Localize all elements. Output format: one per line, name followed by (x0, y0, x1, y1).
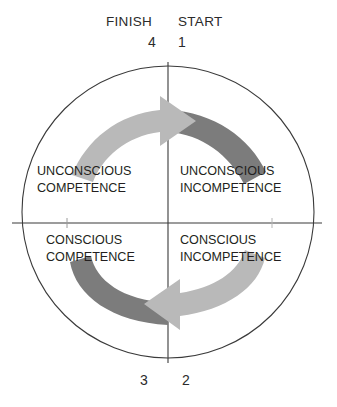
quadrant-line-2: COMPETENCE (37, 180, 131, 197)
quadrant-label-conscious-incompetence: CONSCIOUS INCOMPETENCE (180, 232, 281, 266)
finish-label: FINISH (106, 14, 152, 29)
quadrant-line-1: CONSCIOUS (46, 232, 135, 249)
step-number-4: 4 (148, 34, 156, 50)
diagram-canvas (0, 0, 337, 407)
step-number-2: 2 (182, 372, 190, 388)
quadrant-label-unconscious-incompetence: UNCONSCIOUS INCOMPETENCE (180, 163, 281, 197)
step-number-1: 1 (178, 34, 186, 50)
competence-cycle-diagram: FINISH START 4 1 3 2 UNCONSCIOUS COMPETE… (0, 0, 337, 407)
step-number-3: 3 (140, 372, 148, 388)
bottom-arrow-dark-segment (70, 256, 168, 325)
quadrant-line-1: CONSCIOUS (180, 232, 281, 249)
quadrant-line-2: COMPETENCE (46, 249, 135, 266)
quadrant-line-1: UNCONSCIOUS (37, 163, 131, 180)
quadrant-line-1: UNCONSCIOUS (180, 163, 281, 180)
quadrant-label-conscious-competence: CONSCIOUS COMPETENCE (46, 232, 135, 266)
quadrant-label-unconscious-competence: UNCONSCIOUS COMPETENCE (37, 163, 131, 197)
quadrant-line-2: INCOMPETENCE (180, 180, 281, 197)
start-label: START (178, 14, 223, 29)
quadrant-line-2: INCOMPETENCE (180, 249, 281, 266)
